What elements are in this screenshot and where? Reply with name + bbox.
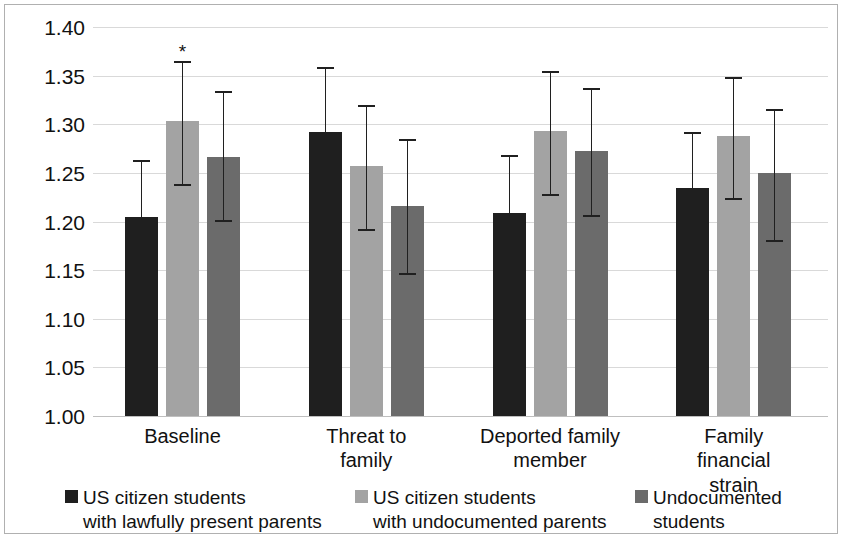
bar-group [93,27,277,416]
legend-item[interactable]: Undocumented students [635,486,782,534]
x-axis-category-labels: BaselineThreat tofamilyDeported familyme… [93,424,828,480]
error-bar-cap-upper [399,139,416,141]
error-bar [182,61,183,184]
y-tick-label: 1.20 [15,211,85,232]
bar-slot [207,27,240,416]
legend-item[interactable]: US citizen students with lawfully presen… [65,486,322,534]
error-bar-cap-lower [542,194,559,196]
axis-baseline [93,416,828,417]
bar [493,213,526,416]
significance-marker: * [179,42,186,61]
error-bar [509,155,510,212]
legend-label: Undocumented students [653,486,782,534]
error-bar-cap-upper [317,67,334,69]
error-bar-cap-upper [583,88,600,90]
category-label-line: Threat to [326,424,406,448]
chart-frame: 1.401.351.301.251.201.151.101.051.00 * B… [4,4,838,534]
y-tick-label: 1.35 [15,65,85,86]
error-bar [550,71,551,195]
legend-item[interactable]: US citizen students with undocumented pa… [355,486,606,534]
error-bar-cap-lower [725,198,742,200]
chart-legend: US citizen students with lawfully presen… [15,486,835,536]
category-label-line: member [480,448,620,472]
error-bar-cap-lower [399,273,416,275]
bar-slot [350,27,383,416]
error-bar [366,105,367,229]
error-bar-cap-upper [133,160,150,162]
error-bar-cap-upper [358,105,375,107]
bar-slot [758,27,791,416]
legend-swatch-icon [635,490,648,503]
bar-group [277,27,461,416]
bar [676,188,709,416]
error-bar [774,109,775,240]
bar-slot [309,27,342,416]
legend-swatch-icon [355,490,368,503]
error-bar [692,132,693,188]
error-bar [141,160,142,216]
y-tick-label: 1.05 [15,357,85,378]
error-bar [733,77,734,199]
error-bar-cap-upper [215,91,232,93]
error-bar [407,139,408,273]
error-bar-cap-upper [725,77,742,79]
error-bar-cap-upper [542,71,559,73]
error-bar-cap-lower [583,215,600,217]
bar-slot [391,27,424,416]
category-label-line: Family financial [687,424,781,473]
legend-label: US citizen students with undocumented pa… [373,486,606,534]
category-label-line: Baseline [144,424,221,448]
legend-swatch-icon [65,490,78,503]
error-bar-cap-lower [766,240,783,242]
bar-slot [125,27,158,416]
error-bar-cap-upper [501,155,518,157]
y-tick-label: 1.25 [15,162,85,183]
bar-slot [493,27,526,416]
y-tick-label: 1.00 [15,406,85,427]
error-bar-cap-upper [684,132,701,134]
error-bar [591,88,592,214]
y-tick-label: 1.10 [15,308,85,329]
x-axis-category-label: Baseline [144,424,221,448]
category-label-line: family [326,448,406,472]
x-axis-category-label: Threat tofamily [326,424,406,473]
error-bar [325,67,326,132]
plot-area: * [93,27,828,416]
y-axis-tick-labels: 1.401.351.301.251.201.151.101.051.00 [13,27,85,416]
bar-group [644,27,828,416]
y-tick-label: 1.40 [15,17,85,38]
category-label-line: Deported family [480,424,620,448]
bar-group [461,27,645,416]
error-bar-cap-lower [215,220,232,222]
bar-slot [166,27,199,416]
error-bar-cap-upper [766,109,783,111]
bar [125,217,158,416]
legend-label: US citizen students with lawfully presen… [83,486,322,534]
error-bar [223,91,224,219]
error-bar-cap-lower [358,229,375,231]
x-axis-category-label: Deported familymember [480,424,620,473]
bar-slot [717,27,750,416]
error-bar-cap-lower [174,184,191,186]
bar-slot [676,27,709,416]
y-tick-label: 1.30 [15,114,85,135]
bar-slot [575,27,608,416]
bar-chart: 1.401.351.301.251.201.151.101.051.00 * B… [0,0,842,538]
bar-slot [534,27,567,416]
y-tick-label: 1.15 [15,260,85,281]
bar [309,132,342,416]
